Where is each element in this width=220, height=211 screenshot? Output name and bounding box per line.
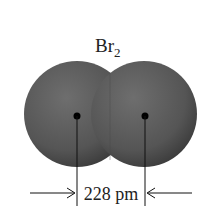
distance-label: 228 pm bbox=[84, 184, 139, 204]
br2-diagram: Br2 228 pm bbox=[0, 0, 220, 211]
molecule-svg: Br2 228 pm bbox=[0, 0, 220, 211]
molecule-title: Br2 bbox=[95, 35, 121, 60]
